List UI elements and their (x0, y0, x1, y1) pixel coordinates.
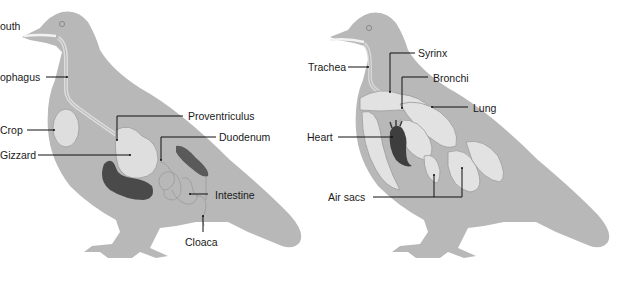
label-trachea: Trachea (308, 61, 346, 73)
leader-lines (0, 0, 621, 286)
label-crop: Crop (0, 124, 23, 136)
label-gizzard: Gizzard (0, 149, 36, 161)
leader-duodenum (161, 137, 216, 160)
label-proventriculus: Proventriculus (188, 110, 255, 122)
label-mouth: outh (0, 20, 20, 32)
leader-bronchi (402, 77, 428, 108)
leader-air-sacs (373, 168, 462, 197)
leader-proventriculus (117, 116, 183, 140)
label-air-sacs: Air sacs (328, 191, 365, 203)
label-cloaca: Cloaca (185, 236, 218, 248)
bird-anatomy-diagram: outh ophagus Crop Gizzard Proventriculus… (0, 0, 621, 286)
label-duodenum: Duodenum (219, 131, 270, 143)
label-lung: Lung (473, 102, 496, 114)
label-intestine: Intestine (215, 189, 255, 201)
label-esophagus: ophagus (0, 71, 40, 83)
label-bronchi: Bronchi (433, 72, 469, 84)
label-heart: Heart (307, 131, 333, 143)
label-syrinx: Syrinx (418, 47, 447, 59)
